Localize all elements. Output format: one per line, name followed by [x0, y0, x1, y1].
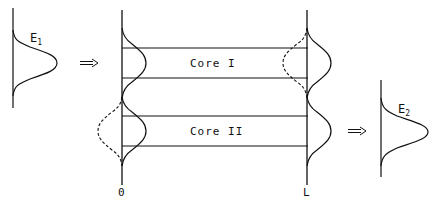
- input-arrow-icon: [80, 59, 98, 67]
- start-position-label: 0: [118, 186, 125, 199]
- core-ii-input-mode: [122, 97, 146, 166]
- output-pulse-e2: E2: [381, 80, 428, 177]
- output-pulse-label: E2: [398, 102, 410, 118]
- core-ii-label: Core II: [190, 125, 243, 138]
- core-i-label: Core I: [190, 57, 236, 70]
- end-position-label: L: [303, 186, 310, 199]
- core-i-input-mode: [122, 28, 146, 98]
- coupler-diagram: E1 Core I Core II: [0, 0, 433, 204]
- core-ii-antisymmetric-mode: [98, 97, 122, 166]
- input-pulse-e1: E1: [13, 8, 57, 108]
- input-pulse-label: E1: [30, 31, 42, 47]
- core-i-output-dashed-mode: [283, 28, 307, 98]
